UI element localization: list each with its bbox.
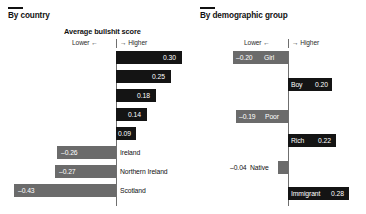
bar-value-poor: –0.19	[239, 113, 256, 120]
bar-value-boy: 0.20	[315, 81, 328, 88]
bar-value-ireland: –0.26	[61, 149, 78, 156]
bar-value-new-zealand: 0.14	[128, 111, 141, 118]
bar-label-boy: Boy	[291, 81, 302, 88]
bar-label-northern-ireland: Northern Ireland	[120, 168, 168, 175]
bar-value-england: 0.09	[118, 130, 131, 137]
bar-value-girl: –0.20	[236, 54, 253, 61]
axis-note-higher-right: → Higher	[292, 39, 319, 46]
zero-axis-line-right	[288, 51, 289, 206]
bar-label-ireland: Ireland	[120, 149, 140, 156]
bar-australia[interactable]	[116, 89, 156, 102]
bar-value-northern-ireland: –0.27	[59, 168, 76, 175]
panel-title-by-demographic-group: By demographic group	[200, 11, 288, 20]
axis-note-lower-right: Lower ←	[244, 39, 270, 46]
bar-label-native: Native	[250, 164, 269, 171]
bar-label-girl: Girl	[264, 54, 274, 61]
panel-rule-right	[200, 7, 215, 9]
bar-value-immigrant: 0.28	[331, 190, 344, 197]
bar-value-australia: 0.18	[137, 92, 150, 99]
bar-label-immigrant: Immigrant	[291, 190, 320, 197]
bar-label-poor: Poor	[265, 113, 279, 120]
chart-title-average-bullshit-score: Average bullshit score	[64, 27, 141, 36]
bar-value-rich: 0.22	[318, 137, 331, 144]
bar-label-scotland: Scotland	[120, 187, 146, 194]
bar-value-united-states: 0.25	[152, 73, 165, 80]
bar-label-rich: Rich	[291, 137, 304, 144]
panel-title-by-country: By country	[8, 11, 50, 20]
axis-note-higher-left: → Higher	[120, 39, 147, 46]
panel-by-country: By country Average bullshit score Lower …	[0, 0, 183, 214]
axis-tick-left	[116, 39, 117, 48]
panel-rule-left	[8, 7, 23, 9]
bar-value-native: –0.04	[230, 164, 247, 171]
bar-value-canada: 0.30	[163, 54, 176, 61]
axis-note-lower-left: Lower ←	[72, 39, 98, 46]
bar-value-scotland: –0.43	[18, 187, 35, 194]
bar-native[interactable]	[278, 161, 288, 174]
panel-by-demographic-group: By demographic group Lower ← → Higher –0…	[183, 0, 366, 214]
axis-tick-right	[288, 39, 289, 48]
